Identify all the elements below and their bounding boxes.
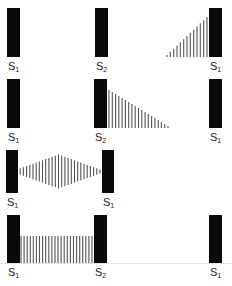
slit-s1 bbox=[7, 79, 20, 128]
wavefront-pattern-diamond bbox=[0, 150, 232, 193]
slit-s2 bbox=[94, 215, 107, 263]
slit-label: S2 bbox=[96, 61, 107, 73]
slit-label: S1 bbox=[210, 132, 221, 144]
slit-label: S1 bbox=[7, 197, 18, 209]
slit-s1 bbox=[209, 79, 222, 128]
slit-s1 bbox=[102, 150, 114, 193]
slit-label: S2 bbox=[95, 267, 106, 279]
slit-s1 bbox=[7, 215, 20, 263]
wavefront-pattern-flat bbox=[0, 215, 232, 263]
slit-label: S1 bbox=[210, 267, 221, 279]
slit-label: S1 bbox=[8, 61, 19, 73]
baseline bbox=[0, 263, 232, 264]
row-1: S1S2S1 bbox=[0, 8, 232, 73]
row-2: S1S2S1 bbox=[0, 79, 232, 144]
slit-s2 bbox=[94, 79, 107, 128]
slit-s1 bbox=[209, 8, 222, 57]
slit-s1 bbox=[7, 8, 20, 57]
slit-label: S2 bbox=[95, 132, 106, 144]
slit-label: S1 bbox=[8, 132, 19, 144]
slit-s2 bbox=[95, 8, 108, 57]
slit-s1 bbox=[209, 215, 222, 263]
slit-s1 bbox=[6, 150, 18, 193]
slit-label: S1 bbox=[103, 197, 114, 209]
slit-label: S1 bbox=[210, 61, 221, 73]
wavefront-pattern-ramp-down bbox=[0, 79, 232, 128]
row-3: S1S1 bbox=[0, 150, 232, 209]
wavefront-pattern-ramp-up bbox=[0, 8, 232, 57]
slit-label: S1 bbox=[8, 267, 19, 279]
row-4: S1S2S1 bbox=[0, 215, 232, 279]
